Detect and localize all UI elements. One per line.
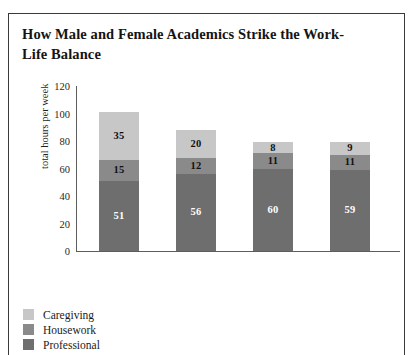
legend-item[interactable]: Housework <box>23 322 100 337</box>
legend-item[interactable]: Professional <box>23 337 100 352</box>
bar-segment-professional[interactable]: 56 <box>176 174 216 251</box>
bar-segment-value: 9 <box>347 143 352 154</box>
y-tick-label-20: 20 <box>60 218 71 229</box>
y-tick-label-0: 0 <box>65 246 70 257</box>
y-tick-label-100: 100 <box>54 108 70 119</box>
bar-segment-value: 11 <box>268 156 278 167</box>
plot-area: 020406080100120 511535Womenwithchildren5… <box>76 86 406 264</box>
bar-segment-value: 15 <box>114 165 125 176</box>
bar-segment-value: 11 <box>345 157 355 168</box>
bar-segment-caregiving[interactable]: 9 <box>330 142 370 154</box>
legend-swatch-housework <box>23 324 34 335</box>
bar-segment-housework[interactable]: 15 <box>99 160 139 181</box>
bar-segment-value: 20 <box>191 139 202 150</box>
y-tick-label-40: 40 <box>60 191 71 202</box>
stacked-bar[interactable]: 59119 <box>330 142 370 251</box>
x-axis-line <box>76 251 400 252</box>
bar-segment-housework[interactable]: 11 <box>253 153 293 168</box>
stacked-bar[interactable]: 511535 <box>99 112 139 251</box>
bar-segment-professional[interactable]: 59 <box>330 170 370 251</box>
bar-segment-caregiving[interactable]: 35 <box>99 112 139 160</box>
bar-segment-value: 12 <box>191 161 202 172</box>
bar-segment-professional[interactable]: 60 <box>253 169 293 252</box>
bar-segment-value: 56 <box>191 207 202 218</box>
legend-label: Housework <box>43 324 96 336</box>
y-axis-line <box>76 86 77 251</box>
bar-segment-value: 51 <box>114 211 125 222</box>
legend-swatch-professional <box>23 339 34 350</box>
bar-segment-professional[interactable]: 51 <box>99 181 139 251</box>
bar-segment-value: 8 <box>270 143 275 154</box>
bar-segment-value: 60 <box>268 205 279 216</box>
legend-label: Professional <box>43 339 100 351</box>
legend-item[interactable]: Caregiving <box>23 307 100 322</box>
bar-segment-value: 59 <box>345 205 356 216</box>
y-tick-label-60: 60 <box>60 163 71 174</box>
bar-segment-caregiving[interactable]: 20 <box>176 130 216 158</box>
figure-frame: How Male and Female Academics Strike the… <box>8 13 405 355</box>
legend-label: Caregiving <box>43 309 94 321</box>
y-axis-title: total hours per week <box>39 84 50 169</box>
y-tick-label-120: 120 <box>54 81 70 92</box>
bar-segment-value: 35 <box>114 131 125 142</box>
legend-swatch-caregiving <box>23 309 34 320</box>
y-tick-label-80: 80 <box>60 136 71 147</box>
chart-title: How Male and Female Academics Strike the… <box>22 25 352 64</box>
stacked-bar[interactable]: 60118 <box>253 142 293 251</box>
bar-segment-housework[interactable]: 12 <box>176 158 216 175</box>
chart-legend: CaregivingHouseworkProfessional <box>23 307 100 352</box>
bar-segment-caregiving[interactable]: 8 <box>253 142 293 153</box>
stacked-bar[interactable]: 561220 <box>176 130 216 251</box>
bar-segment-housework[interactable]: 11 <box>330 155 370 170</box>
